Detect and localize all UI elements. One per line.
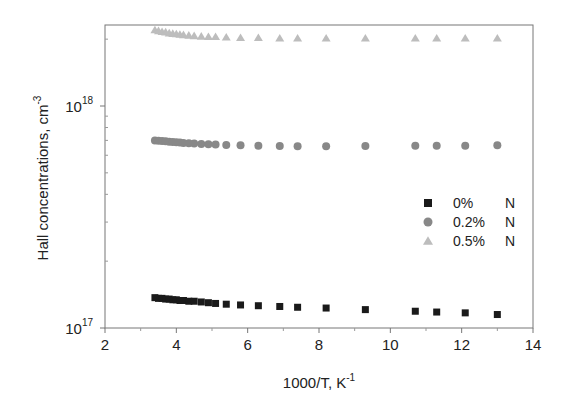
data-point <box>197 32 206 40</box>
data-point <box>433 142 441 150</box>
data-point <box>222 33 231 41</box>
data-point <box>493 34 502 42</box>
x-tick-label: 6 <box>243 336 251 353</box>
data-point <box>462 309 469 316</box>
data-point <box>222 141 230 149</box>
x-tick-label: 4 <box>172 336 180 353</box>
data-point <box>411 34 420 42</box>
data-point <box>461 142 469 150</box>
x-tick-label: 2 <box>101 336 109 353</box>
data-series <box>150 26 501 318</box>
legend: 0%N0.2%N0.5%N <box>423 195 515 249</box>
data-point <box>197 140 205 148</box>
data-point <box>493 141 501 149</box>
legend-label: 0.5% <box>453 233 485 249</box>
data-point <box>323 305 330 312</box>
data-point <box>433 309 440 316</box>
data-point <box>237 301 244 308</box>
x-axis: 2468101214 <box>101 328 542 353</box>
data-point <box>322 142 330 150</box>
y-tick-label: 1017 <box>65 317 93 337</box>
series-circle <box>151 136 501 150</box>
data-point <box>275 34 284 42</box>
data-point <box>212 300 219 307</box>
x-axis-title: 1000/T, K-1 <box>283 372 356 391</box>
data-point <box>211 32 220 40</box>
data-point <box>237 141 245 149</box>
plot-border <box>105 25 533 328</box>
data-point <box>254 142 262 150</box>
data-point <box>236 33 245 41</box>
legend-suffix: N <box>505 233 515 249</box>
data-point <box>198 298 205 305</box>
data-point <box>361 142 369 150</box>
data-point <box>412 308 419 315</box>
data-point <box>254 33 263 41</box>
series-square <box>151 294 500 318</box>
series-triangle <box>150 26 501 42</box>
data-point <box>276 142 284 150</box>
data-point <box>276 303 283 310</box>
legend-marker-triangle <box>423 236 433 245</box>
data-point <box>204 32 213 40</box>
x-tick-label: 14 <box>525 336 542 353</box>
data-point <box>223 301 230 308</box>
legend-marker-circle <box>424 218 433 227</box>
y-axis: 10171018 <box>65 95 105 337</box>
hall-concentration-chart: 2468101214 10171018 0%N0.2%N0.5%N 1000/T… <box>0 0 570 409</box>
legend-label: 0.2% <box>453 214 485 230</box>
legend-suffix: N <box>505 214 515 230</box>
data-point <box>361 34 370 42</box>
x-tick-label: 10 <box>382 336 399 353</box>
data-point <box>294 304 301 311</box>
legend-suffix: N <box>505 195 515 211</box>
data-point <box>461 34 470 42</box>
data-point <box>205 299 212 306</box>
y-axis-title: Hall concentrations, cm-3 <box>32 95 51 260</box>
data-point <box>191 298 198 305</box>
data-point <box>204 140 212 148</box>
plot-frame <box>105 25 533 328</box>
data-point <box>293 34 302 42</box>
data-point <box>212 141 220 149</box>
legend-marker-square <box>424 199 432 207</box>
data-point <box>411 142 419 150</box>
data-point <box>294 142 302 150</box>
data-point <box>432 34 441 42</box>
x-tick-label: 8 <box>315 336 323 353</box>
data-point <box>255 302 262 309</box>
legend-label: 0% <box>453 195 473 211</box>
x-tick-label: 12 <box>453 336 470 353</box>
data-point <box>190 139 198 147</box>
data-point <box>362 306 369 313</box>
data-point <box>494 311 501 318</box>
data-point <box>322 34 331 42</box>
y-tick-label: 1018 <box>65 95 93 115</box>
minor-ticks <box>105 39 497 331</box>
